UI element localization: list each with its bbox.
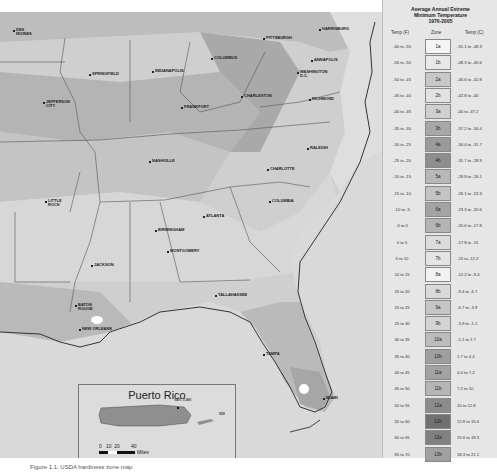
temp-f: 0 to 5 [387, 240, 417, 245]
temp-f: 30 to 35 [387, 337, 417, 342]
city-marker-icon [79, 329, 81, 331]
city-label: FRANKFORT [184, 105, 209, 109]
legend-row: 50 to 5512a10 to 12.8 [383, 397, 497, 414]
city-label: LITTLE ROCK [48, 199, 62, 207]
temp-f: -5 to 0 [387, 223, 417, 228]
temp-c: -51.1 to -48.3 [457, 44, 495, 49]
legend-row: 45 to 5011b7.2 to 10 [383, 380, 497, 397]
legend-row: 65 to 7013b18.3 to 21.1 [383, 446, 497, 463]
city-marker-icon [263, 38, 265, 40]
city-label: INDIANAPOLIS [155, 69, 184, 73]
city-label: MONTGOMERY [170, 249, 199, 253]
city-label: WASHINGTON D.C. [300, 70, 327, 78]
temp-f: 20 to 25 [387, 305, 417, 310]
temp-f: -15 to -10 [387, 191, 417, 196]
city-label: Miami [326, 396, 338, 400]
figure-caption: Figure 1.1: USDA hardiness zone map [30, 464, 132, 470]
miles-label: Miles [137, 449, 149, 455]
legend-title: Average Annual Extreme Minimum Temperatu… [383, 6, 497, 24]
city-label: JACKSON [94, 263, 114, 267]
temp-f: 35 to 40 [387, 354, 417, 359]
temp-f: 25 to 30 [387, 321, 417, 326]
temp-c: -34.4 to -31.7 [457, 142, 495, 147]
temp-f: -20 to -15 [387, 174, 417, 179]
city-label: ATLANTA [206, 214, 224, 218]
zone-swatch: 10a [425, 332, 451, 347]
temp-c: 4.4 to 7.2 [457, 370, 495, 375]
temp-f: -40 to -35 [387, 109, 417, 114]
city-label: HARRISBURG [322, 27, 349, 31]
zone-swatch: 4b [425, 153, 451, 168]
header-zone: Zone [431, 30, 441, 35]
zone-swatch: 9b [425, 316, 451, 331]
temp-f: 65 to 70 [387, 452, 417, 457]
city-marker-icon [309, 99, 311, 101]
zone-swatch: 7a [425, 235, 451, 250]
temp-f: 10 to 15 [387, 272, 417, 277]
temp-c: -6.7 to -3.9 [457, 305, 495, 310]
zone-swatch: 5a [425, 169, 451, 184]
city-marker-icon [149, 161, 151, 163]
zone-swatch: 3b [425, 121, 451, 136]
city-label: ANNAPOLIS [314, 58, 338, 62]
temp-c: -40 to -37.2 [457, 109, 495, 114]
temp-c: -23.3 to -20.6 [457, 207, 495, 212]
temp-f: -50 to -45 [387, 77, 417, 82]
zone-swatch: 1b [425, 55, 451, 70]
city-label: CHARLESTON [244, 94, 272, 98]
legend-row: -45 to -402b-42.8 to -40 [383, 87, 497, 104]
zone-swatch: 6b [425, 218, 451, 233]
city-label: Tampa [266, 352, 280, 356]
temp-f: 40 to 45 [387, 370, 417, 375]
city-marker-icon [241, 96, 243, 98]
legend-row: -25 to -204b-31.7 to -28.9 [383, 152, 497, 169]
city-marker-icon [13, 30, 15, 32]
legend-row: -35 to -303b-37.2 to -34.4 [383, 120, 497, 137]
hardiness-zone-map: DES MOINESSPRINGFIELDINDIANAPOLISJEFFERS… [0, 12, 382, 458]
temp-c: 10 to 12.8 [457, 403, 495, 408]
city-marker-icon [155, 230, 157, 232]
temp-c: -20.6 to -17.8 [457, 223, 495, 228]
city-label: TALLAHASSEE [218, 293, 247, 297]
zone-swatch: 13b [425, 447, 451, 462]
temp-c: -28.9 to -26.1 [457, 174, 495, 179]
temp-f: -55 to -50 [387, 60, 417, 65]
temp-c: -45.6 to -42.8 [457, 77, 495, 82]
zone-swatch: 6a [425, 202, 451, 217]
city-marker-icon [91, 265, 93, 267]
temp-f: -35 to -30 [387, 126, 417, 131]
legend-row: 20 to 259a-6.7 to -3.9 [383, 299, 497, 316]
city-marker-icon [211, 58, 213, 60]
header-temp-c: Temp (C) [465, 30, 484, 35]
temp-c: 15.6 to 18.3 [457, 435, 495, 440]
city-marker-icon [311, 60, 313, 62]
zone-swatch: 8b [425, 284, 451, 299]
zone-swatch: 12b [425, 414, 451, 429]
city-label: RALEIGH [310, 146, 328, 150]
temp-f: -45 to -40 [387, 93, 417, 98]
city-marker-icon [152, 71, 154, 73]
city-label: RICHMOND [312, 97, 334, 101]
legend-row: -30 to -254a-34.4 to -31.7 [383, 136, 497, 153]
header-temp-f: Temp (F) [391, 30, 409, 35]
legend-row: -5 to 06b-20.6 to -17.8 [383, 217, 497, 234]
city-marker-icon [203, 216, 205, 218]
legend-row: 0 to 57a-17.8 to -15 [383, 234, 497, 251]
city-label: NASHVILLE [152, 159, 175, 163]
zone-swatch: 12a [425, 398, 451, 413]
legend-row: -50 to -452a-45.6 to -42.8 [383, 71, 497, 88]
temp-c: -42.8 to -40 [457, 93, 495, 98]
legend-row: -10 to -56a-23.3 to -20.6 [383, 201, 497, 218]
legend-row: 30 to 3510a-1.1 to 1.7 [383, 331, 497, 348]
city-marker-icon [215, 295, 217, 297]
legend-row: 10 to 158a-12.2 to -9.4 [383, 266, 497, 283]
scale-bar-miles [99, 451, 135, 454]
legend-row: 15 to 208b-9.4 to -6.7 [383, 283, 497, 300]
temp-f: -60 to -55 [387, 44, 417, 49]
temp-c: -17.8 to -15 [457, 240, 495, 245]
legend-row: 55 to 6012b12.8 to 15.6 [383, 413, 497, 430]
zone-swatch: 10b [425, 349, 451, 364]
temp-c: -48.3 to -45.6 [457, 60, 495, 65]
zone-swatch: 11b [425, 381, 451, 396]
zone-swatch: 7b [425, 251, 451, 266]
